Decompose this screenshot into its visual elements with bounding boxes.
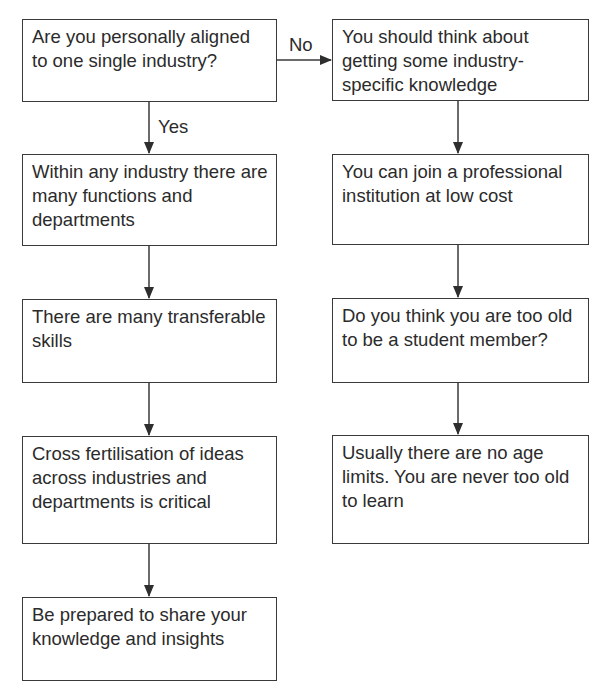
node-industry-specific-knowledge: You should think about getting some indu… (332, 19, 589, 101)
edge-label-no: No (289, 34, 313, 56)
node-text: Cross fertilisation of ideas across indu… (32, 443, 244, 512)
node-too-old-question: Do you think you are too old to be a stu… (332, 298, 589, 383)
node-join-professional-institution: You can join a professional institution … (332, 154, 589, 245)
node-text: Be prepared to share your knowledge and … (32, 604, 247, 649)
node-text: Are you personally aligned to one single… (32, 26, 250, 71)
node-functions-and-departments: Within any industry there are many funct… (22, 154, 277, 246)
node-text: Do you think you are too old to be a stu… (342, 305, 572, 350)
node-text: You should think about getting some indu… (342, 26, 529, 95)
node-text: Within any industry there are many funct… (32, 161, 267, 230)
node-text: There are many transferable skills (32, 306, 265, 351)
node-text: Usually there are no age limits. You are… (342, 442, 569, 511)
node-aligned-to-industry-question: Are you personally aligned to one single… (22, 19, 277, 102)
node-cross-fertilisation: Cross fertilisation of ideas across indu… (22, 436, 277, 544)
node-no-age-limits: Usually there are no age limits. You are… (332, 435, 589, 544)
node-transferable-skills: There are many transferable skills (22, 299, 277, 383)
edge-label-yes: Yes (158, 116, 188, 138)
node-share-knowledge: Be prepared to share your knowledge and … (22, 597, 277, 681)
node-text: You can join a professional institution … (342, 161, 562, 206)
